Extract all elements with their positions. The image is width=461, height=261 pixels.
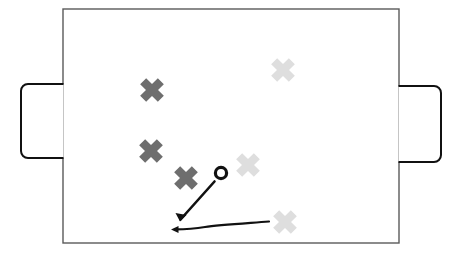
goal-right[interactable] xyxy=(399,86,442,162)
goal-left-shape xyxy=(21,84,64,158)
ball xyxy=(215,167,226,178)
tactics-board-canvas xyxy=(0,0,461,261)
ball-icon[interactable] xyxy=(215,167,226,178)
goal-left[interactable] xyxy=(21,84,64,158)
playing-field[interactable] xyxy=(63,9,399,243)
tactics-board xyxy=(0,0,461,261)
goal-right-shape xyxy=(399,86,442,162)
